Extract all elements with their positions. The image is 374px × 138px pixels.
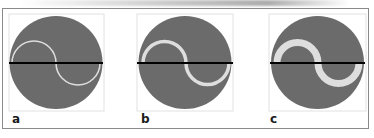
- panel-label-c: c: [270, 112, 277, 126]
- panel-b: [137, 14, 233, 111]
- panel-label-a: a: [12, 112, 20, 126]
- s-curve-diagram: [0, 0, 374, 138]
- panel-a: [9, 14, 104, 111]
- panel-c: [269, 14, 366, 111]
- panel-label-b: b: [141, 112, 150, 126]
